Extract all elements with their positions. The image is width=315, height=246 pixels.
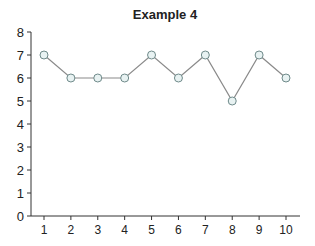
data-point-marker [94,74,102,82]
y-tick-label: 5 [17,94,24,109]
data-series [40,51,290,105]
y-tick-label: 2 [17,163,24,178]
data-point-marker [174,74,182,82]
x-tick-label: 5 [148,223,155,237]
x-tick-label: 4 [121,223,128,237]
line-chart: Example 4 012345678 12345678910 [0,0,315,246]
x-tick-label: 8 [229,223,236,237]
data-point-marker [121,74,129,82]
chart-title: Example 4 [133,7,198,22]
data-point-marker [282,74,290,82]
y-tick-label: 1 [17,186,24,201]
x-tick-label: 2 [68,223,75,237]
x-axis-ticks: 12345678910 [41,216,293,237]
x-tick-label: 9 [256,223,263,237]
data-point-marker [228,97,236,105]
y-tick-label: 8 [17,25,24,40]
series-line [44,55,286,101]
y-tick-label: 7 [17,48,24,63]
axes [31,32,300,216]
data-point-marker [201,51,209,59]
y-tick-label: 6 [17,71,24,86]
x-tick-label: 7 [202,223,209,237]
y-tick-label: 4 [17,117,24,132]
y-axis-ticks: 012345678 [17,25,31,224]
y-tick-label: 0 [17,209,24,224]
x-tick-label: 10 [279,223,293,237]
data-point-marker [40,51,48,59]
x-tick-label: 1 [41,223,48,237]
data-point-marker [67,74,75,82]
y-tick-label: 3 [17,140,24,155]
data-point-marker [255,51,263,59]
x-tick-label: 6 [175,223,182,237]
x-tick-label: 3 [94,223,101,237]
data-point-marker [148,51,156,59]
